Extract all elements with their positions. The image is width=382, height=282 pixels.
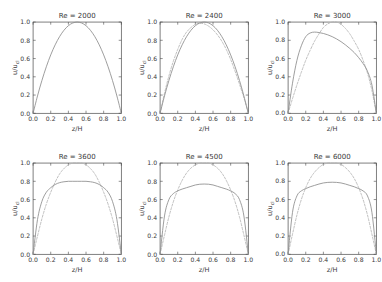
svg-text:1.0: 1.0 (371, 257, 381, 264)
subplot-re-2000: 0.00.20.40.60.81.00.00.20.40.60.81.0Re =… (0, 0, 127, 141)
svg-text:0.0: 0.0 (20, 251, 30, 258)
svg-text:0.6: 0.6 (336, 115, 346, 122)
svg-text:0.6: 0.6 (148, 55, 158, 62)
svg-text:1.0: 1.0 (116, 115, 126, 122)
svg-text:z/H: z/H (327, 267, 338, 275)
svg-text:u/ucl: u/ucl (11, 60, 20, 74)
svg-text:z/H: z/H (72, 267, 83, 275)
svg-text:0.8: 0.8 (20, 37, 30, 44)
svg-text:1.0: 1.0 (148, 18, 158, 25)
svg-text:u/ucl: u/ucl (138, 202, 147, 216)
svg-text:Re = 2000: Re = 2000 (59, 11, 96, 20)
svg-text:0.6: 0.6 (275, 196, 285, 203)
svg-text:1.0: 1.0 (275, 18, 285, 25)
svg-text:1.0: 1.0 (20, 160, 30, 167)
svg-text:0.8: 0.8 (99, 257, 109, 264)
subplot-canvas: 0.00.20.40.60.81.00.00.20.40.60.81.0Re =… (255, 141, 382, 282)
svg-text:z/H: z/H (199, 125, 210, 133)
svg-text:0.0: 0.0 (275, 110, 285, 117)
svg-text:0.2: 0.2 (20, 91, 30, 98)
svg-text:0.6: 0.6 (336, 257, 346, 264)
svg-text:0.6: 0.6 (20, 196, 30, 203)
svg-text:0.6: 0.6 (275, 55, 285, 62)
svg-text:u/ucl: u/ucl (266, 60, 275, 74)
svg-text:0.2: 0.2 (275, 91, 285, 98)
svg-text:0.4: 0.4 (20, 73, 30, 80)
subplot-re-3000: 0.00.20.40.60.81.00.00.20.40.60.81.0Re =… (255, 0, 382, 141)
velocity-profile-figure: 0.00.20.40.60.81.00.00.20.40.60.81.0Re =… (0, 0, 382, 282)
svg-text:0.8: 0.8 (226, 115, 236, 122)
svg-text:0.4: 0.4 (191, 257, 201, 264)
svg-text:0.6: 0.6 (208, 257, 218, 264)
svg-text:0.4: 0.4 (191, 115, 201, 122)
svg-text:z/H: z/H (72, 125, 83, 133)
svg-text:Re = 6000: Re = 6000 (313, 152, 350, 161)
svg-text:1.0: 1.0 (244, 257, 254, 264)
svg-text:0.6: 0.6 (81, 115, 91, 122)
svg-text:0.4: 0.4 (64, 115, 74, 122)
svg-text:0.4: 0.4 (20, 214, 30, 221)
svg-text:1.0: 1.0 (371, 115, 381, 122)
svg-text:0.2: 0.2 (148, 91, 158, 98)
svg-text:0.6: 0.6 (208, 115, 218, 122)
svg-text:Re = 3600: Re = 3600 (59, 152, 96, 161)
svg-text:0.8: 0.8 (353, 115, 363, 122)
svg-text:0.2: 0.2 (173, 257, 183, 264)
svg-text:0.8: 0.8 (20, 178, 30, 185)
svg-text:u/ucl: u/ucl (11, 202, 20, 216)
svg-text:0.0: 0.0 (148, 110, 158, 117)
svg-text:0.8: 0.8 (148, 178, 158, 185)
svg-text:0.0: 0.0 (148, 251, 158, 258)
svg-text:1.0: 1.0 (148, 160, 158, 167)
svg-text:0.6: 0.6 (20, 55, 30, 62)
svg-text:u/ucl: u/ucl (138, 60, 147, 74)
svg-text:0.4: 0.4 (318, 257, 328, 264)
subplot-re-6000: 0.00.20.40.60.81.00.00.20.40.60.81.0Re =… (255, 141, 382, 282)
svg-text:z/H: z/H (199, 267, 210, 275)
svg-text:0.0: 0.0 (275, 251, 285, 258)
svg-text:0.2: 0.2 (301, 257, 311, 264)
svg-text:0.4: 0.4 (148, 214, 158, 221)
svg-text:0.4: 0.4 (148, 73, 158, 80)
svg-text:0.4: 0.4 (275, 214, 285, 221)
svg-text:0.2: 0.2 (20, 233, 30, 240)
subplot-re-4500: 0.00.20.40.60.81.00.00.20.40.60.81.0Re =… (127, 141, 254, 282)
svg-text:0.6: 0.6 (81, 257, 91, 264)
svg-text:0.8: 0.8 (275, 178, 285, 185)
subplot-canvas: 0.00.20.40.60.81.00.00.20.40.60.81.0Re =… (255, 0, 382, 141)
svg-text:0.2: 0.2 (275, 233, 285, 240)
svg-text:0.4: 0.4 (318, 115, 328, 122)
svg-text:0.2: 0.2 (148, 233, 158, 240)
subplot-re-2400: 0.00.20.40.60.81.00.00.20.40.60.81.0Re =… (127, 0, 254, 141)
subplot-canvas: 0.00.20.40.60.81.00.00.20.40.60.81.0Re =… (127, 141, 254, 282)
svg-text:0.6: 0.6 (148, 196, 158, 203)
svg-text:1.0: 1.0 (20, 18, 30, 25)
subplot-grid: 0.00.20.40.60.81.00.00.20.40.60.81.0Re =… (0, 0, 382, 282)
subplot-canvas: 0.00.20.40.60.81.00.00.20.40.60.81.0Re =… (127, 0, 254, 141)
svg-text:0.8: 0.8 (275, 37, 285, 44)
svg-text:Re = 2400: Re = 2400 (186, 11, 223, 20)
svg-text:0.8: 0.8 (353, 257, 363, 264)
svg-text:z/H: z/H (327, 125, 338, 133)
svg-text:0.8: 0.8 (99, 115, 109, 122)
svg-text:0.2: 0.2 (46, 257, 56, 264)
subplot-canvas: 0.00.20.40.60.81.00.00.20.40.60.81.0Re =… (0, 141, 127, 282)
svg-text:0.2: 0.2 (301, 115, 311, 122)
svg-text:0.4: 0.4 (64, 257, 74, 264)
subplot-canvas: 0.00.20.40.60.81.00.00.20.40.60.81.0Re =… (0, 0, 127, 141)
svg-text:0.8: 0.8 (148, 37, 158, 44)
svg-text:u/ucl: u/ucl (266, 202, 275, 216)
svg-text:0.2: 0.2 (46, 115, 56, 122)
svg-text:Re = 3000: Re = 3000 (313, 11, 350, 20)
svg-text:1.0: 1.0 (116, 257, 126, 264)
subplot-re-3600: 0.00.20.40.60.81.00.00.20.40.60.81.0Re =… (0, 141, 127, 282)
svg-text:0.8: 0.8 (226, 257, 236, 264)
svg-text:0.4: 0.4 (275, 73, 285, 80)
svg-text:1.0: 1.0 (244, 115, 254, 122)
svg-text:0.2: 0.2 (173, 115, 183, 122)
svg-text:Re = 4500: Re = 4500 (186, 152, 223, 161)
svg-text:1.0: 1.0 (275, 160, 285, 167)
svg-text:0.0: 0.0 (20, 110, 30, 117)
